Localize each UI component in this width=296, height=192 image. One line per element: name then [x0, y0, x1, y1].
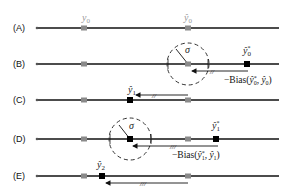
yhat1-label: ŷ1: [127, 84, 136, 97]
row-label-c: (C): [13, 95, 26, 105]
bias0-label: −Bias(ŷ*0, ŷ0): [224, 75, 272, 86]
y0-marker: [81, 62, 87, 67]
yhat0-star-marker: [244, 61, 250, 67]
svg-text://: //: [209, 68, 215, 76]
sigma-label: σ: [129, 120, 135, 131]
bias1-label: −Bias(ŷ*1, ŷ1): [172, 150, 220, 161]
yhat0-marker: [185, 98, 191, 103]
yhat0-marker: [185, 62, 191, 67]
y0-marker: [81, 174, 87, 179]
y0-marker: [81, 26, 87, 31]
sigma-label: σ: [185, 44, 191, 55]
row-b: (B) σ ŷ*0 // −Bias(ŷ*0, ŷ0): [13, 43, 279, 86]
yhat1-marker: [127, 97, 133, 103]
row-e: (E) ŷ2 ///: [13, 159, 279, 188]
yhat2-marker: [99, 173, 105, 179]
y0-marker: [81, 98, 87, 103]
row-label-b: (B): [13, 59, 25, 69]
y0-marker: [81, 137, 87, 142]
yhat0-star-label: ŷ*0: [242, 45, 251, 58]
yhat0-marker: [185, 26, 191, 31]
yhat0-marker: [185, 137, 191, 142]
row-label-e: (E): [13, 171, 25, 181]
svg-text:///: ///: [139, 180, 147, 188]
yhat1-star-marker: [213, 136, 219, 142]
yhat0-label: ŷ0: [183, 12, 192, 25]
yhat1-marker: [127, 136, 133, 142]
svg-text://: //: [151, 92, 157, 100]
yhat2-label: ŷ2: [96, 159, 105, 172]
y0-label: y0: [81, 12, 90, 25]
row-d: (D) σ ŷ*1 /// −Bias(ŷ*1, ŷ1): [13, 118, 279, 161]
bias-correction-diagram: (A) y0 ŷ0 (B) σ ŷ*0 // −Bias(ŷ*0, ŷ0) (C…: [0, 0, 296, 192]
row-c: (C) ŷ1 //: [13, 84, 279, 105]
row-label-d: (D): [13, 134, 26, 144]
yhat1-star-label: ŷ*1: [211, 120, 220, 133]
yhat0-marker: [185, 174, 191, 179]
row-a: (A) y0 ŷ0: [13, 12, 279, 33]
row-label-a: (A): [13, 23, 25, 33]
